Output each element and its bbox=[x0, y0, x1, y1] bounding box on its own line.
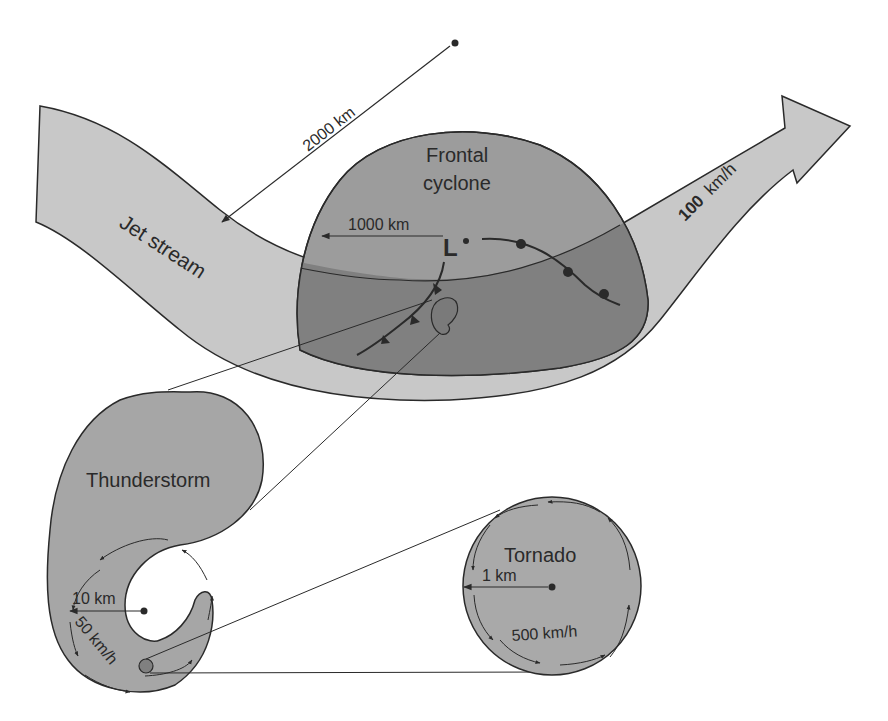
cyclone-title-line2: cyclone bbox=[423, 172, 491, 194]
cyclone-title-line1: Frontal bbox=[426, 144, 488, 166]
tornado-scale-label: 1 km bbox=[482, 567, 517, 584]
tornado-title: Tornado bbox=[504, 544, 576, 566]
thunderstorm: Thunderstorm 10 km 50 km/h bbox=[47, 392, 263, 692]
scale-2000km-label: 2000 km bbox=[299, 103, 358, 154]
thunderstorm-title: Thunderstorm bbox=[86, 469, 211, 491]
low-pressure-symbol: L bbox=[443, 234, 458, 261]
weather-scale-diagram: Jet stream 100 km/h 2000 km Frontal cycl… bbox=[0, 0, 888, 721]
tornado: Tornado 1 km 500 km/h bbox=[463, 497, 641, 675]
tornado-spot bbox=[139, 659, 153, 673]
thunderstorm-scale-label: 10 km bbox=[72, 590, 116, 607]
scale-1000km-label: 1000 km bbox=[348, 216, 409, 233]
